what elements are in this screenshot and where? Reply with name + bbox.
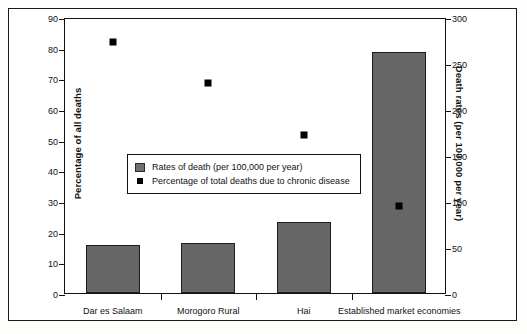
left-tick-mark	[59, 203, 65, 204]
left-axis-title: Percentage of all deaths	[72, 6, 83, 282]
category-label: Established market economies	[338, 306, 461, 316]
left-tick-mark	[59, 142, 65, 143]
left-tick-mark	[59, 295, 65, 296]
square-point-icon	[135, 177, 145, 186]
left-tick-label: 30	[48, 198, 58, 208]
left-tick-label: 60	[48, 106, 58, 116]
right-tick-label: 0	[452, 290, 457, 300]
data-point	[205, 79, 212, 86]
data-point	[109, 38, 116, 45]
left-tick-mark	[59, 80, 65, 81]
left-tick-mark	[59, 50, 65, 51]
right-tick-label: 300	[452, 14, 467, 24]
plot-area: Percentage of all deaths Death rates (pe…	[64, 18, 446, 294]
bar	[181, 243, 235, 293]
category-label: Morogoro Rural	[177, 306, 240, 316]
square-point-glyph	[137, 178, 143, 184]
legend-entry-point: Percentage of total deaths due to chroni…	[135, 174, 350, 188]
right-tick-mark	[445, 203, 451, 204]
category-label: Hai	[297, 306, 311, 316]
left-tick-mark	[59, 234, 65, 235]
left-tick-mark	[59, 172, 65, 173]
right-tick-mark	[445, 295, 451, 296]
left-tick-label: 90	[48, 14, 58, 24]
legend-label-bar: Rates of death (per 100,000 per year)	[152, 162, 303, 172]
legend-label-point: Percentage of total deaths due to chroni…	[152, 176, 350, 186]
chart-figure: Percentage of all deaths Death rates (pe…	[0, 0, 527, 334]
data-point	[300, 132, 307, 139]
data-point	[396, 202, 403, 209]
right-tick-label: 150	[452, 152, 467, 162]
category-separator-tick	[256, 293, 257, 300]
bar-swatch-icon	[135, 163, 145, 172]
left-tick-mark	[59, 264, 65, 265]
legend-entry-bar: Rates of death (per 100,000 per year)	[135, 160, 350, 174]
left-tick-label: 40	[48, 167, 58, 177]
right-axis-title: Death rates (per 100,000 per year)	[454, 6, 465, 282]
bar	[372, 52, 426, 293]
category-separator-tick	[161, 293, 162, 300]
right-tick-mark	[445, 19, 451, 20]
right-tick-mark	[445, 65, 451, 66]
right-tick-mark	[445, 157, 451, 158]
left-tick-mark	[59, 19, 65, 20]
chart-legend: Rates of death (per 100,000 per year) Pe…	[127, 154, 361, 194]
right-tick-mark	[445, 111, 451, 112]
left-tick-label: 20	[48, 229, 58, 239]
left-tick-label: 80	[48, 45, 58, 55]
right-tick-mark	[445, 249, 451, 250]
left-tick-label: 0	[53, 290, 58, 300]
right-tick-label: 50	[452, 244, 462, 254]
right-tick-label: 100	[452, 198, 467, 208]
category-label: Dar es Salaam	[83, 306, 143, 316]
category-separator-tick	[352, 293, 353, 300]
bar	[86, 245, 140, 293]
left-tick-label: 70	[48, 75, 58, 85]
bar	[277, 222, 331, 293]
right-tick-label: 250	[452, 60, 467, 70]
left-tick-label: 50	[48, 137, 58, 147]
left-tick-mark	[59, 111, 65, 112]
right-tick-label: 200	[452, 106, 467, 116]
left-tick-label: 10	[48, 259, 58, 269]
